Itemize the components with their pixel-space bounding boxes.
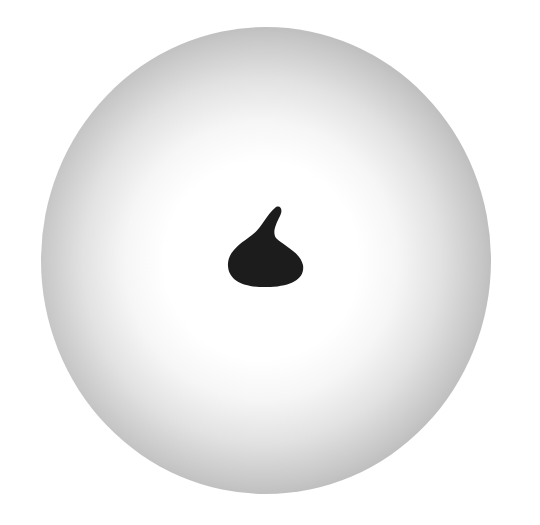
black-drop-shape [0,0,540,525]
drop-path [228,207,303,288]
